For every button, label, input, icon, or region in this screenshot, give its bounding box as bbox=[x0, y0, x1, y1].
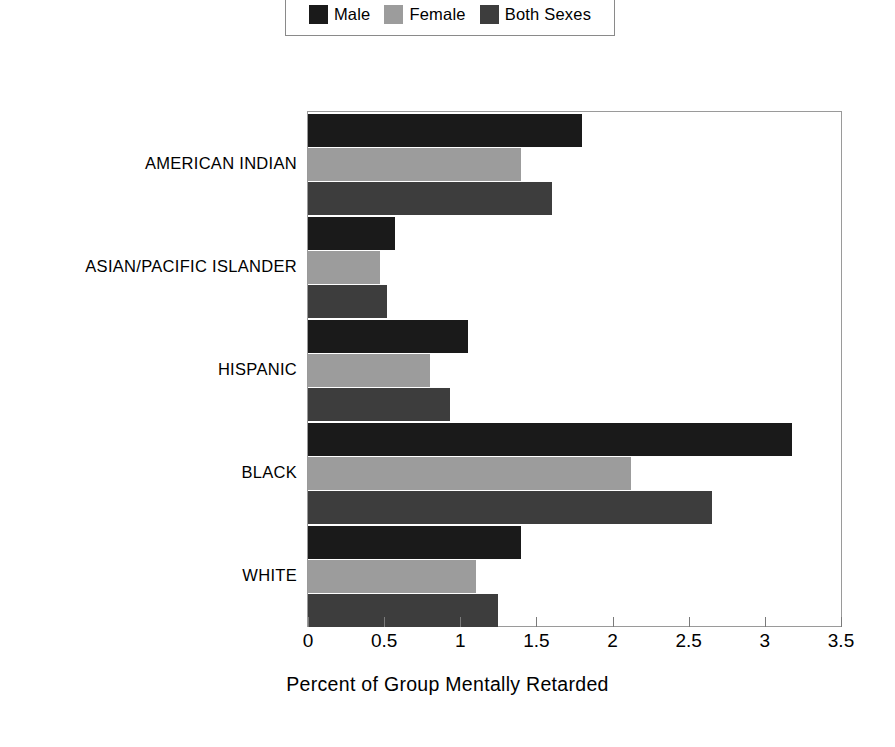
y-axis-label-text: ASIAN/PACIFIC ISLANDER bbox=[85, 257, 297, 276]
x-tick-mark bbox=[536, 617, 537, 627]
bar bbox=[308, 114, 582, 147]
x-tick-label: 2.5 bbox=[675, 630, 701, 652]
x-tick-mark bbox=[689, 617, 690, 627]
y-axis-label-text: HISPANIC bbox=[218, 360, 297, 379]
legend-entry-both-sexes: Both Sexes bbox=[480, 5, 591, 24]
x-tick-label: 1 bbox=[455, 630, 466, 652]
bar bbox=[308, 423, 792, 456]
bar bbox=[308, 594, 498, 627]
bar bbox=[308, 251, 380, 284]
legend-entry-male: Male bbox=[309, 5, 371, 24]
y-axis-label: AMERICAN INDIAN bbox=[0, 112, 297, 215]
bars-container bbox=[308, 112, 841, 626]
y-axis-category-labels: AMERICAN INDIANASIAN/PACIFIC ISLANDERHIS… bbox=[0, 111, 300, 627]
bar-group bbox=[308, 319, 841, 422]
x-tick-label: 0.5 bbox=[371, 630, 397, 652]
y-axis-label: HISPANIC bbox=[0, 318, 297, 421]
x-tick-label: 3.5 bbox=[828, 630, 854, 652]
x-tick-label: 1.5 bbox=[523, 630, 549, 652]
x-axis-ticks: 00.511.522.533.5 bbox=[307, 627, 843, 667]
bar bbox=[308, 217, 395, 250]
x-tick-mark bbox=[460, 617, 461, 627]
bar bbox=[308, 457, 631, 490]
x-tick-label: 3 bbox=[760, 630, 771, 652]
y-axis-label: WHITE bbox=[0, 524, 297, 627]
y-axis-label: BLACK bbox=[0, 421, 297, 524]
x-tick-mark bbox=[613, 617, 614, 627]
legend-entry-female: Female bbox=[384, 5, 465, 24]
legend-label-male: Male bbox=[334, 5, 371, 24]
bar bbox=[308, 148, 521, 181]
x-axis-title: Percent of Group Mentally Retarded bbox=[0, 673, 895, 696]
bar bbox=[308, 285, 387, 318]
legend-label-both-sexes: Both Sexes bbox=[505, 5, 591, 24]
y-axis-label: ASIAN/PACIFIC ISLANDER bbox=[0, 215, 297, 318]
legend-swatch-both-sexes bbox=[480, 5, 499, 24]
chart-plot-area bbox=[307, 111, 842, 627]
bar-group bbox=[308, 216, 841, 319]
bar-group bbox=[308, 422, 841, 525]
x-tick-mark bbox=[384, 617, 385, 627]
bar-group bbox=[308, 525, 841, 628]
bar bbox=[308, 354, 430, 387]
x-tick-label: 0 bbox=[303, 630, 314, 652]
x-tick-mark bbox=[841, 617, 842, 627]
y-axis-label-text: AMERICAN INDIAN bbox=[145, 154, 297, 173]
chart-legend: Male Female Both Sexes bbox=[285, 0, 615, 36]
bar-group bbox=[308, 113, 841, 216]
bar bbox=[308, 388, 450, 421]
bar bbox=[308, 491, 712, 524]
legend-swatch-female bbox=[384, 5, 403, 24]
bar bbox=[308, 526, 521, 559]
x-tick-mark bbox=[308, 617, 309, 627]
x-tick-mark bbox=[765, 617, 766, 627]
legend-label-female: Female bbox=[409, 5, 465, 24]
bar bbox=[308, 560, 476, 593]
y-axis-label-text: WHITE bbox=[242, 566, 297, 585]
x-tick-label: 2 bbox=[607, 630, 618, 652]
legend-swatch-male bbox=[309, 5, 328, 24]
y-axis-label-text: BLACK bbox=[241, 463, 297, 482]
bar bbox=[308, 182, 552, 215]
bar bbox=[308, 320, 468, 353]
